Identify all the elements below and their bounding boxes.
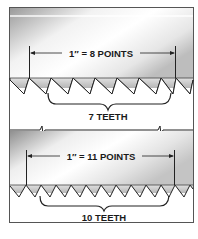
diagram-canvas: 1″ = 8 POINTS 7 TEETH 1″ = 11 POINTS 10: [0, 0, 198, 239]
coarse-teeth-label: 7 TEETH: [88, 111, 127, 122]
fine-teeth-label: 10 TEETH: [82, 212, 126, 223]
fine-measurement-label: 1″ = 11 POINTS: [67, 151, 136, 162]
coarse-blade-body: [10, 8, 193, 78]
saw-teeth-diagram: 1″ = 8 POINTS 7 TEETH 1″ = 11 POINTS 10: [0, 0, 198, 239]
coarse-measurement-label: 1″ = 8 POINTS: [69, 48, 133, 59]
